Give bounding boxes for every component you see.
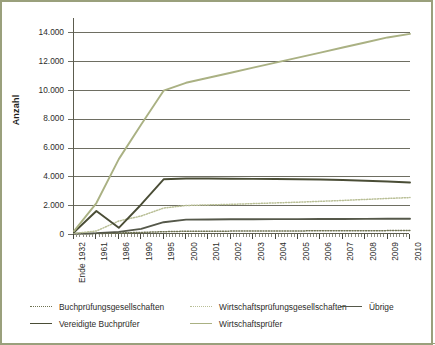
- x-minor-tick: [172, 234, 173, 237]
- x-minor-tick: [377, 234, 378, 237]
- x-minor-tick: [281, 234, 282, 237]
- x-axis-ticks: [73, 234, 409, 238]
- x-minor-tick: [233, 234, 234, 237]
- x-major-tick: [73, 234, 74, 239]
- x-minor-tick: [124, 234, 125, 237]
- x-minor-tick: [220, 234, 221, 237]
- x-major-tick: [207, 234, 208, 239]
- legend-label: Wirtschaftsprüfungsgesellschaften: [219, 302, 347, 312]
- x-minor-tick: [262, 234, 263, 237]
- x-minor-tick: [99, 234, 100, 237]
- x-tick-label: 1995: [166, 242, 176, 261]
- x-minor-tick: [396, 234, 397, 237]
- x-minor-tick: [92, 234, 93, 237]
- x-minor-tick: [316, 234, 317, 237]
- legend-buchpruefungsgesellschaften[interactable]: Buchprüfungsgesellschaften: [30, 298, 164, 315]
- x-minor-tick: [351, 234, 352, 237]
- legend-swatch-icon: [30, 306, 52, 307]
- legend-uebrige[interactable]: Übrige: [340, 298, 394, 315]
- x-minor-tick: [169, 234, 170, 237]
- x-minor-tick: [108, 234, 109, 237]
- plot-area: [73, 18, 409, 234]
- x-major-tick: [252, 234, 253, 239]
- y-tick-label: 4.000: [2, 171, 64, 181]
- series-line: [74, 34, 410, 231]
- x-major-tick: [185, 234, 186, 239]
- x-minor-tick: [153, 234, 154, 237]
- x-minor-tick: [79, 234, 80, 237]
- y-tick-label: 14.000: [2, 27, 64, 37]
- x-minor-tick: [195, 234, 196, 237]
- y-tick-label: 6.000: [2, 142, 64, 152]
- x-major-tick: [95, 234, 96, 239]
- x-minor-tick: [201, 234, 202, 237]
- chart-legend: BuchprüfungsgesellschaftenWirtschaftsprü…: [30, 298, 420, 332]
- x-major-tick: [297, 234, 298, 239]
- x-minor-tick: [239, 234, 240, 237]
- x-minor-tick: [131, 234, 132, 237]
- legend-swatch-icon: [190, 306, 212, 307]
- x-minor-tick: [83, 234, 84, 237]
- x-minor-tick: [367, 234, 368, 237]
- x-minor-tick: [127, 234, 128, 237]
- x-major-tick: [319, 234, 320, 239]
- y-tick-label: 10.000: [2, 85, 64, 95]
- x-major-tick: [387, 234, 388, 239]
- x-minor-tick: [147, 234, 148, 237]
- x-minor-tick: [332, 234, 333, 237]
- x-minor-tick: [303, 234, 304, 237]
- bottom-rule: [2, 343, 435, 344]
- x-minor-tick: [159, 234, 160, 237]
- x-minor-tick: [198, 234, 199, 237]
- x-minor-tick: [307, 234, 308, 237]
- x-minor-tick: [156, 234, 157, 237]
- x-minor-tick: [284, 234, 285, 237]
- x-minor-tick: [217, 234, 218, 237]
- x-tick-label: 2003: [256, 242, 266, 261]
- x-minor-tick: [179, 234, 180, 237]
- x-minor-tick: [175, 234, 176, 237]
- x-tick-label: 2006: [323, 242, 333, 261]
- x-minor-tick: [329, 234, 330, 237]
- legend-row-1: BuchprüfungsgesellschaftenWirtschaftsprü…: [30, 298, 420, 315]
- x-minor-tick: [143, 234, 144, 237]
- x-minor-tick: [323, 234, 324, 237]
- x-tick-label: 2007: [345, 242, 355, 261]
- x-minor-tick: [121, 234, 122, 237]
- x-major-tick: [275, 234, 276, 239]
- x-minor-tick: [76, 234, 77, 237]
- series-line: [74, 179, 410, 233]
- x-minor-tick: [111, 234, 112, 237]
- x-minor-tick: [326, 234, 327, 237]
- legend-swatch-icon: [340, 306, 362, 307]
- x-tick-label: 2002: [233, 242, 243, 261]
- series-lines: [74, 18, 410, 234]
- legend-wirtschaftspruefungsgesellschaften[interactable]: Wirtschaftsprüfungsgesellschaften: [190, 298, 347, 315]
- x-tick-label: 1986: [121, 242, 131, 261]
- x-major-tick: [140, 234, 141, 239]
- x-minor-tick: [249, 234, 250, 237]
- x-minor-tick: [339, 234, 340, 237]
- legend-wirtschaftspruefer[interactable]: Wirtschaftsprüfer: [190, 315, 282, 332]
- y-tick-label: 12.000: [2, 56, 64, 66]
- x-minor-tick: [86, 234, 87, 237]
- legend-row-2: Vereidigte BuchprüferWirtschaftsprüfer: [30, 315, 420, 332]
- x-tick-label: 2001: [211, 242, 221, 261]
- x-tick-label: 2004: [278, 242, 288, 261]
- x-minor-tick: [383, 234, 384, 237]
- x-major-tick: [409, 234, 410, 239]
- x-tick-label: 2000: [189, 242, 199, 261]
- x-minor-tick: [265, 234, 266, 237]
- legend-vereidigte-buchpruefer[interactable]: Vereidigte Buchprüfer: [30, 315, 140, 332]
- x-minor-tick: [300, 234, 301, 237]
- y-tick-label: 0: [2, 229, 64, 239]
- x-minor-tick: [371, 234, 372, 237]
- x-tick-label: 1990: [144, 242, 154, 261]
- x-minor-tick: [358, 234, 359, 237]
- x-tick-label: 1961: [99, 242, 109, 261]
- x-minor-tick: [345, 234, 346, 237]
- x-major-tick: [163, 234, 164, 239]
- y-tick-label: 8.000: [2, 113, 64, 123]
- x-minor-tick: [355, 234, 356, 237]
